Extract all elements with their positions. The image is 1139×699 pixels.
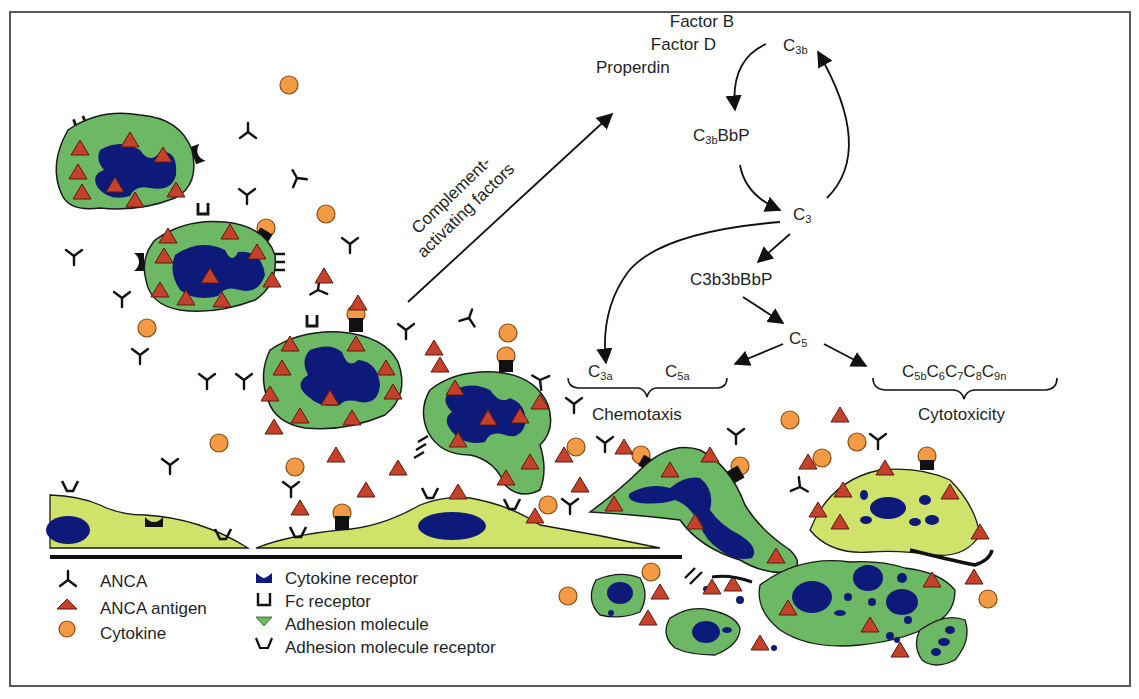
endothelium-left <box>46 481 248 548</box>
chemotaxis-label: Chemotaxis <box>592 406 682 423</box>
node-c5a: C5a <box>665 363 690 382</box>
node-c3: C3 <box>793 206 811 225</box>
neutrophil-2 <box>134 203 285 311</box>
factor-d-label: Factor D <box>624 36 716 53</box>
node-c3b3bbbp: C3b3bBbP <box>690 271 772 288</box>
neutrophil-3 <box>261 305 402 429</box>
neutrophil-5 <box>590 446 798 573</box>
legend-adhesion-molecule-receptor: Adhesion molecule receptor <box>285 639 496 656</box>
necrotic-cells <box>559 561 997 665</box>
legend-anca: ANCA <box>100 573 147 590</box>
node-membrane-attack-complex: C5bC6C7C8C9n <box>902 363 1006 382</box>
node-c3a: C3a <box>588 363 613 382</box>
legend-fc-receptor: Fc receptor <box>285 593 371 610</box>
diagram-artwork <box>0 0 1139 699</box>
node-c3bbbp: C3bBbP <box>693 127 750 146</box>
properdin-label: Properdin <box>596 59 670 76</box>
legend-cytokine-receptor: Cytokine receptor <box>285 570 418 587</box>
cytotoxicity-label: Cytotoxicity <box>918 406 1005 423</box>
legend-adhesion-molecule: Adhesion molecule <box>285 616 429 633</box>
legend-cytokine: Cytokine <box>100 625 166 642</box>
node-c5: C5 <box>789 330 807 349</box>
endothelium-mid <box>256 484 660 548</box>
node-c3b: C3b <box>783 37 808 56</box>
neutrophil-1 <box>56 113 205 209</box>
factor-b-label: Factor B <box>642 13 734 30</box>
endothelium-right <box>809 447 992 565</box>
legend-anca-antigen: ANCA antigen <box>100 600 207 617</box>
